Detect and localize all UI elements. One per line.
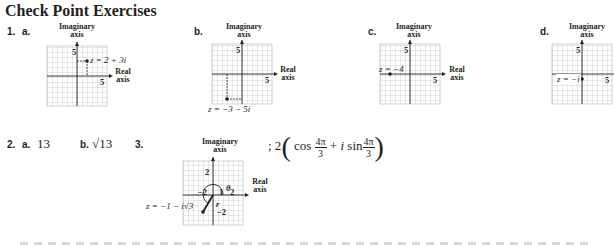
graph-1a: [47, 42, 109, 106]
exercise-1d-label: d.: [540, 26, 549, 37]
exercise-2-number: 2.: [7, 139, 15, 150]
graph-1a-real-axis-label: Real axis: [112, 68, 134, 84]
axis-label-line: axis: [384, 31, 444, 39]
axis-label-line: axis: [112, 76, 134, 84]
axis-label-line: axis: [562, 31, 612, 39]
exercise-1b-label: b.: [194, 26, 203, 37]
frac-den: 3: [363, 148, 375, 159]
graph-1d-point-label: z = −i: [556, 74, 581, 84]
exercise-1a-label: a.: [22, 26, 30, 37]
frac-num: 4π: [315, 136, 327, 148]
graph-1c-tick-x: 5: [433, 75, 437, 85]
section-title: Check Point Exercises: [5, 2, 157, 20]
graph-1c-tick-y: 5: [404, 45, 408, 55]
plus-sign: +: [330, 138, 337, 153]
graph-1a-imag-axis-label: Imaginary axis: [47, 23, 107, 39]
graph-3-imag-axis-label: Imaginary axis: [190, 138, 250, 154]
graph-1b-point-label: z = −3 − 5i: [208, 104, 250, 114]
graph-3-real-axis-label: Real axis: [249, 178, 271, 194]
exercise-3-number: 3.: [135, 139, 143, 150]
exercise-2b-answer: √13: [92, 136, 112, 152]
graph-1d-tick-y: 5: [576, 45, 580, 55]
open-paren: (: [281, 131, 290, 162]
exercise-2a-answer: 13: [37, 136, 50, 152]
axis-label-line: axis: [249, 186, 271, 194]
exercise-2a-label: a.: [22, 139, 30, 150]
axis-label-line: axis: [277, 74, 299, 82]
graph-1a-tick-x: 5: [100, 77, 104, 87]
axis-label-line: axis: [190, 146, 250, 154]
graph-1b: [212, 40, 274, 104]
exercise-1-number: 1.: [7, 26, 15, 37]
graph-1b-tick-x: 5: [265, 75, 269, 85]
graph-1d: [552, 40, 614, 104]
graph-3-tick-x-neg2: −2: [198, 187, 207, 197]
graph-1c-real-axis-label: Real axis: [446, 66, 468, 82]
graph-1b-tick-y: 5: [236, 45, 240, 55]
graph-1d-imag-axis-label: Imaginary axis: [562, 23, 612, 39]
exercise-1c-label: c.: [368, 26, 376, 37]
axis-label-line: axis: [446, 74, 468, 82]
graph-1b-real-axis-label: Real axis: [277, 66, 299, 82]
exercise-2b-label: b.: [80, 139, 89, 150]
sin-text: sin: [347, 138, 362, 153]
cos-text: cos: [294, 138, 311, 153]
graph-1b-imag-axis-label: Imaginary axis: [214, 23, 274, 39]
close-paren: ): [375, 131, 384, 162]
graph-1a-point-label: z = 2 + 3i: [90, 55, 126, 65]
graph-3-point-label: z = −1 − i√3: [146, 201, 193, 211]
graph-3-tick-y-neg2: −2: [217, 207, 226, 217]
axis-label-line: axis: [214, 31, 274, 39]
frac-den: 3: [315, 148, 327, 159]
answer-prefix: ; 2: [268, 138, 281, 153]
graph-3: [183, 155, 245, 225]
graph-1a-tick-y: 5: [72, 47, 76, 57]
frac-num: 4π: [363, 136, 375, 148]
graph-1c-point-label: z = −4: [379, 64, 404, 74]
fraction-sin: 4π3: [363, 136, 375, 159]
axis-label-line: axis: [47, 31, 107, 39]
fraction-cos: 4π3: [315, 136, 327, 159]
graph-3-tick-x-2: 2: [230, 187, 234, 197]
i-text: i: [340, 138, 344, 153]
graph-3-tick-y-2: 2: [205, 167, 209, 177]
graph-1c-imag-axis-label: Imaginary axis: [384, 23, 444, 39]
graph-1d-tick-x: 5: [605, 75, 609, 85]
graph-3-tick-x-1: 1: [219, 187, 223, 197]
exercise-3-polar-answer: ; 2( cos 4π3 + i sin4π3): [268, 133, 384, 161]
